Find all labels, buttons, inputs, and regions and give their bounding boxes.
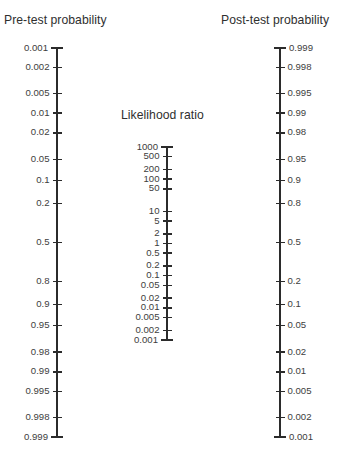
axis-tick-pretest-16 (51, 436, 63, 438)
axis-tick-label-posttest-1: 0.998 (288, 62, 312, 72)
axis-tick-label-posttest-0: 0.999 (289, 43, 313, 53)
axis-tick-label-posttest-2: 0.995 (288, 88, 312, 98)
axis-tick-likelihood_ratio-4 (163, 188, 172, 190)
axis-tick-label-posttest-9: 0.2 (288, 276, 301, 286)
axis-tick-posttest-7 (276, 203, 285, 205)
axis-tick-pretest-10 (53, 304, 62, 306)
axis-tick-label-pretest-2: 0.005 (25, 88, 49, 98)
pretest-axis-title: Pre-test probability (4, 13, 107, 27)
axis-tick-likelihood_ratio-16 (163, 330, 172, 332)
axis-tick-posttest-10 (276, 304, 285, 306)
axis-tick-label-pretest-10: 0.9 (36, 299, 49, 309)
axis-tick-posttest-0 (274, 47, 286, 49)
axis-tick-label-pretest-8: 0.5 (36, 237, 49, 247)
axis-tick-label-pretest-5: 0.05 (31, 154, 50, 164)
axis-tick-label-pretest-14: 0.995 (25, 386, 49, 396)
axis-tick-posttest-11 (276, 325, 285, 327)
axis-tick-label-likelihood_ratio-6: 5 (154, 216, 159, 226)
axis-tick-label-pretest-16: 0.999 (24, 432, 48, 442)
axis-tick-pretest-5 (53, 159, 62, 161)
axis-tick-likelihood_ratio-7 (163, 233, 172, 235)
axis-tick-label-likelihood_ratio-9: 0.5 (146, 248, 159, 258)
axis-tick-label-pretest-12: 0.98 (31, 347, 50, 357)
axis-tick-pretest-3 (53, 112, 62, 114)
axis-tick-pretest-13 (53, 371, 62, 373)
axis-tick-label-likelihood_ratio-17: 0.001 (134, 335, 158, 345)
axis-tick-label-posttest-13: 0.01 (288, 366, 307, 376)
axis-tick-pretest-4 (53, 132, 62, 134)
axis-tick-label-pretest-1: 0.002 (25, 62, 49, 72)
axis-tick-posttest-14 (276, 391, 285, 393)
axis-tick-label-posttest-6: 0.9 (288, 175, 301, 185)
axis-tick-likelihood_ratio-5 (163, 211, 172, 213)
axis-tick-label-pretest-7: 0.2 (36, 198, 49, 208)
axis-tick-likelihood_ratio-14 (163, 307, 172, 309)
axis-tick-pretest-1 (53, 67, 62, 69)
axis-tick-label-posttest-3: 0.99 (288, 108, 307, 118)
axis-tick-posttest-15 (276, 417, 285, 419)
axis-tick-pretest-12 (53, 351, 62, 353)
axis-tick-label-posttest-15: 0.002 (288, 412, 312, 422)
likelihood-ratio-axis-title: Likelihood ratio (121, 108, 204, 122)
axis-tick-posttest-12 (276, 351, 285, 353)
axis-tick-likelihood_ratio-15 (163, 317, 172, 319)
axis-tick-likelihood_ratio-3 (163, 178, 172, 180)
axis-tick-label-likelihood_ratio-12: 0.05 (141, 280, 160, 290)
axis-tick-pretest-2 (53, 93, 62, 95)
axis-tick-label-likelihood_ratio-1: 500 (143, 151, 159, 161)
axis-tick-posttest-3 (276, 112, 285, 114)
posttest-axis-title: Post-test probability (221, 13, 329, 27)
fagan-nomogram: Pre-test probability Likelihood ratio Po… (0, 0, 349, 453)
axis-tick-posttest-16 (274, 436, 286, 438)
axis-tick-posttest-2 (276, 93, 285, 95)
axis-tick-label-posttest-16: 0.001 (289, 432, 313, 442)
axis-tick-likelihood_ratio-13 (163, 297, 172, 299)
axis-tick-label-posttest-7: 0.8 (288, 198, 301, 208)
axis-tick-label-posttest-12: 0.02 (288, 347, 307, 357)
axis-tick-posttest-9 (276, 281, 285, 283)
axis-tick-posttest-13 (276, 371, 285, 373)
axis-tick-label-pretest-0: 0.001 (24, 43, 48, 53)
axis-tick-label-likelihood_ratio-4: 50 (149, 183, 160, 193)
axis-tick-label-pretest-13: 0.99 (31, 366, 50, 376)
axis-tick-label-posttest-10: 0.1 (288, 299, 301, 309)
axis-tick-label-pretest-9: 0.8 (36, 276, 49, 286)
axis-tick-likelihood_ratio-10 (163, 265, 172, 267)
axis-tick-label-pretest-3: 0.01 (31, 108, 50, 118)
axis-tick-likelihood_ratio-17 (161, 339, 173, 341)
axis-tick-label-posttest-14: 0.005 (288, 386, 312, 396)
axis-tick-likelihood_ratio-0 (161, 146, 173, 148)
axis-tick-label-pretest-15: 0.998 (25, 412, 49, 422)
axis-tick-likelihood_ratio-12 (163, 285, 172, 287)
axis-tick-pretest-11 (53, 325, 62, 327)
axis-tick-likelihood_ratio-9 (163, 252, 172, 254)
axis-tick-posttest-5 (276, 159, 285, 161)
axis-tick-likelihood_ratio-1 (163, 156, 172, 158)
axis-tick-posttest-4 (276, 132, 285, 134)
axis-tick-posttest-1 (276, 67, 285, 69)
axis-tick-label-posttest-11: 0.05 (288, 320, 307, 330)
axis-tick-pretest-6 (53, 180, 62, 182)
axis-tick-pretest-9 (53, 281, 62, 283)
axis-tick-label-pretest-11: 0.95 (31, 320, 50, 330)
axis-tick-label-pretest-6: 0.1 (36, 175, 49, 185)
axis-tick-likelihood_ratio-2 (163, 169, 172, 171)
axis-tick-posttest-8 (276, 242, 285, 244)
axis-tick-likelihood_ratio-8 (163, 243, 172, 245)
axis-tick-likelihood_ratio-11 (163, 275, 172, 277)
axis-tick-label-likelihood_ratio-15: 0.005 (135, 312, 159, 322)
axis-tick-pretest-7 (53, 203, 62, 205)
axis-tick-label-posttest-5: 0.95 (288, 154, 307, 164)
axis-tick-label-posttest-4: 0.98 (288, 127, 307, 137)
axis-tick-pretest-0 (51, 47, 63, 49)
axis-tick-pretest-14 (53, 391, 62, 393)
axis-tick-likelihood_ratio-6 (163, 220, 172, 222)
axis-tick-posttest-6 (276, 180, 285, 182)
axis-tick-pretest-8 (53, 242, 62, 244)
axis-tick-label-pretest-4: 0.02 (31, 127, 50, 137)
axis-tick-label-posttest-8: 0.5 (288, 237, 301, 247)
axis-tick-pretest-15 (53, 417, 62, 419)
